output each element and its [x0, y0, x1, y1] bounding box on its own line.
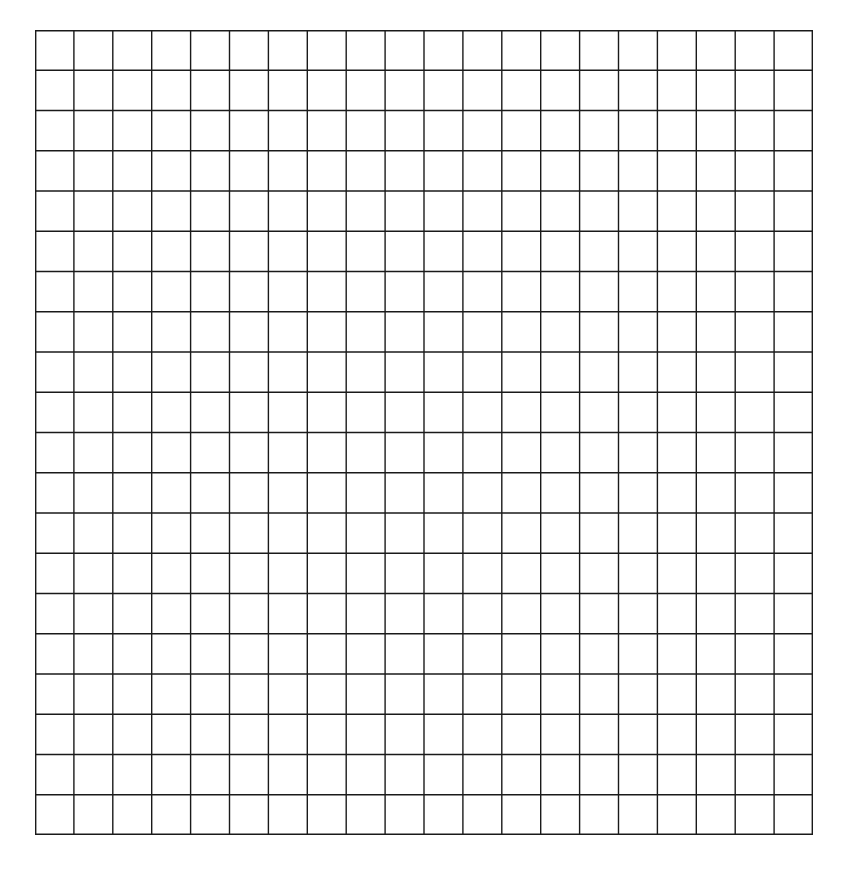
grid-canvas [35, 30, 813, 835]
grid-figure [35, 30, 813, 835]
